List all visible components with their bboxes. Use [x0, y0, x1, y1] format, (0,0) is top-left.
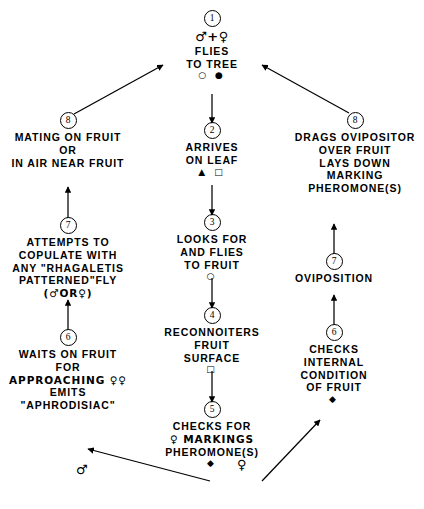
node-right-6-line-3: CONDITION — [274, 369, 394, 382]
node-right-6-markers: ◆ — [274, 395, 394, 404]
node-left-7-line-4: PATTERNED"FLY — [0, 274, 136, 287]
flowchart-diagram: 1 ♂+♀ FLIES TO TREE ○ ● 2 ARRIVES ON LEA… — [0, 0, 424, 509]
node-left-7-line-1: ATTEMPTS TO — [0, 236, 136, 249]
node-right-7-oviposition: 7 OVIPOSITION — [274, 253, 394, 285]
node-right-7-line-1: OVIPOSITION — [274, 272, 394, 285]
node-5-line-2: ♀ MARKINGS — [137, 433, 287, 446]
node-left-6-line-5: "APHRODISIAC" — [0, 399, 136, 412]
node-1-line-3: TO TREE — [152, 58, 272, 71]
node-left-8-line-3: IN AIR NEAR FRUIT — [0, 157, 136, 170]
edge-label-female-branch: ♀ — [237, 458, 247, 471]
node-left-8-line-1: MATING ON FRUIT — [0, 131, 136, 144]
node-right-8-line-2: OVER FRUIT — [286, 144, 424, 157]
node-2-line-1: ARRIVES — [152, 141, 272, 154]
node-right-8-drags-ovipositor: 8 DRAGS OVIPOSITOR OVER FRUIT LAYS DOWN … — [286, 112, 424, 195]
edge-label-male-branch: ♂ — [76, 463, 88, 476]
node-3-line-2: AND FLIES — [147, 246, 277, 259]
node-2-markers: ▲ □ — [152, 168, 272, 177]
node-left-7-line-3: ANY "RHAGALETIS — [0, 262, 136, 275]
node-left-7-attempts-to-copulate: 7 ATTEMPTS TO COPULATE WITH ANY "RHAGALE… — [0, 217, 136, 300]
node-4-badge: 4 — [204, 307, 221, 324]
node-2-badge: 2 — [204, 122, 221, 139]
node-left-7-line-5: (♂OR♀) — [0, 287, 136, 300]
edge-left8-to-n1 — [74, 65, 163, 114]
node-left-6-line-1: WAITS ON FRUIT — [0, 348, 136, 361]
node-4-line-2: FRUIT — [142, 339, 282, 352]
node-4-line-1: RECONNOITERS — [142, 326, 282, 339]
node-1-markers: ○ ● — [152, 71, 272, 80]
node-3-badge: 3 — [204, 214, 221, 231]
node-left-6-waits-on-fruit: 6 WAITS ON FRUIT FOR APPROACHING ♀♀ EMIT… — [0, 329, 136, 412]
node-right-6-badge: 6 — [326, 324, 343, 341]
node-left-6-line-4: EMITS — [0, 386, 136, 399]
node-left-6-line-2: FOR — [0, 361, 136, 374]
node-1-flies-to-tree: 1 ♂+♀ FLIES TO TREE ○ ● — [152, 10, 272, 80]
node-3-line-3: TO FRUIT — [147, 259, 277, 272]
node-5-markers: ◆ — [137, 459, 287, 468]
node-4-reconnoiters-fruit-surface: 4 RECONNOITERS FRUIT SURFACE □ — [142, 307, 282, 374]
node-left-7-badge: 7 — [60, 217, 77, 234]
node-right-8-line-3: LAYS DOWN — [286, 157, 424, 170]
node-left-6-line-3: APPROACHING ♀♀ — [0, 374, 136, 387]
node-right-8-badge: 8 — [347, 112, 364, 129]
node-right-8-line-4: MARKING — [286, 169, 424, 182]
node-right-6-line-4: OF FRUIT — [274, 381, 394, 394]
node-1-badge: 1 — [204, 10, 221, 27]
node-left-8-line-2: OR — [0, 144, 136, 157]
node-4-line-3: SURFACE — [142, 352, 282, 365]
node-3-markers: ○ — [147, 272, 277, 281]
node-2-line-2: ON LEAF — [152, 154, 272, 167]
node-5-badge: 5 — [204, 401, 221, 418]
node-4-markers: □ — [142, 365, 282, 374]
node-2-arrives-on-leaf: 2 ARRIVES ON LEAF ▲ □ — [152, 122, 272, 177]
node-right-7-badge: 7 — [326, 253, 343, 270]
node-left-8-badge: 8 — [60, 112, 77, 129]
node-right-6-line-2: INTERNAL — [274, 356, 394, 369]
node-right-8-line-5: PHEROMONE(S) — [286, 182, 424, 195]
node-left-6-badge: 6 — [60, 329, 77, 346]
node-1-line-2: FLIES — [152, 45, 272, 58]
node-right-8-line-1: DRAGS OVIPOSITOR — [286, 131, 424, 144]
node-3-looks-for-fruit: 3 LOOKS FOR AND FLIES TO FRUIT ○ — [147, 214, 277, 281]
edge-right8-to-n1 — [262, 65, 349, 113]
node-right-6-checks-internal-condition: 6 CHECKS INTERNAL CONDITION OF FRUIT ◆ — [274, 324, 394, 404]
node-1-line-1: ♂+♀ — [152, 29, 272, 45]
node-5-line-3: PHEROMONE(S) — [137, 446, 287, 459]
node-5-line-1: CHECKS FOR — [137, 420, 287, 433]
node-3-line-1: LOOKS FOR — [147, 233, 277, 246]
node-left-7-line-2: COPULATE WITH — [0, 249, 136, 262]
node-right-6-line-1: CHECKS — [274, 343, 394, 356]
node-left-8-mating-on-fruit: 8 MATING ON FRUIT OR IN AIR NEAR FRUIT — [0, 112, 136, 169]
node-5-checks-for-markings: 5 CHECKS FOR ♀ MARKINGS PHEROMONE(S) ◆ — [137, 401, 287, 468]
